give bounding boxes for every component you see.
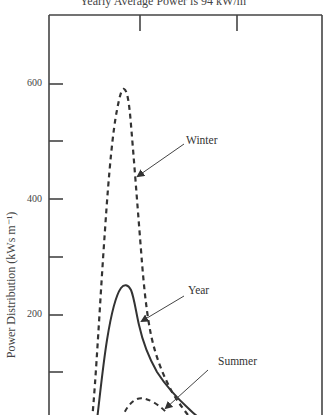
plot-frame (49, 15, 322, 415)
x-axis-ticks-top (140, 15, 237, 31)
series-year-line (97, 285, 203, 415)
winter-annotation-arrow (138, 144, 184, 176)
annotation-winter: Winter (186, 134, 217, 146)
y-axis-ticks (49, 84, 63, 372)
annotation-summer: Summer (218, 355, 257, 367)
series-summer-line (121, 398, 166, 415)
year-annotation-arrow (142, 296, 184, 321)
annotation-year: Year (188, 284, 209, 296)
chart-plot-area (0, 0, 326, 415)
summer-annotation-arrow (166, 370, 208, 408)
series-winter-line (92, 89, 190, 415)
